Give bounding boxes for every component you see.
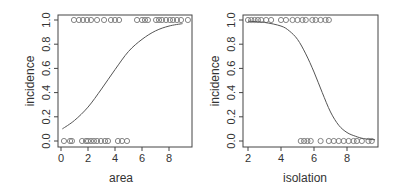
data-point	[303, 17, 308, 22]
data-point	[326, 138, 331, 143]
data-point	[185, 17, 190, 22]
x-axis: 02468	[58, 147, 172, 164]
x-tick-label: 2	[85, 152, 91, 164]
data-point	[134, 17, 139, 22]
data-points	[245, 17, 374, 143]
y-tick-label: 1.0	[225, 12, 237, 27]
x-axis-label: area	[109, 171, 133, 185]
y-tick-label: 0.2	[225, 109, 237, 124]
y-tick-label: 0.2	[40, 109, 52, 124]
y-tick-label: 0.6	[225, 61, 237, 76]
x-tick-label: 8	[344, 152, 350, 164]
data-point	[331, 138, 336, 143]
x-tick-label: 0	[58, 152, 64, 164]
data-point	[88, 17, 93, 22]
y-tick-label: 0.8	[225, 37, 237, 52]
data-point	[124, 138, 129, 143]
data-point	[283, 17, 288, 22]
y-tick-label: 1.0	[40, 12, 52, 27]
data-point	[295, 17, 300, 22]
y-axis-label: incidence	[208, 55, 222, 106]
data-point	[341, 138, 346, 143]
data-point	[308, 138, 313, 143]
data-point	[278, 17, 283, 22]
y-tick-label: 0.8	[40, 37, 52, 52]
data-point	[269, 17, 274, 22]
x-axis: 2468	[245, 147, 350, 164]
x-tick-label: 6	[311, 152, 317, 164]
x-tick-label: 8	[166, 152, 172, 164]
y-axis: 0.00.20.40.60.81.0	[225, 12, 243, 148]
y-tick-label: 0.0	[225, 133, 237, 148]
y-axis: 0.00.20.40.60.81.0	[40, 12, 58, 148]
data-point	[354, 138, 359, 143]
data-point	[264, 17, 269, 22]
data-points	[61, 17, 190, 143]
data-point	[71, 17, 76, 22]
panel-area: 0.00.20.40.60.81.0 02468 area incidence	[23, 12, 192, 185]
data-point	[290, 17, 295, 22]
x-tick-label: 4	[278, 152, 284, 164]
data-point	[313, 17, 318, 22]
y-tick-label: 0.6	[40, 61, 52, 76]
data-point	[94, 17, 99, 22]
y-axis-label: incidence	[23, 55, 37, 106]
chart-canvas: 0.00.20.40.60.81.0 02468 area incidence …	[0, 0, 401, 192]
panel-isolation: 0.00.20.40.60.81.0 2468 isolation incide…	[208, 12, 378, 185]
plot-frame	[243, 15, 378, 147]
data-point	[346, 138, 351, 143]
x-tick-label: 2	[245, 152, 251, 164]
data-point	[359, 138, 364, 143]
fit-curve	[248, 21, 375, 140]
data-point	[318, 138, 323, 143]
plot-frame	[58, 15, 192, 147]
y-tick-label: 0.4	[225, 85, 237, 100]
data-point	[336, 138, 341, 143]
x-tick-label: 4	[112, 152, 118, 164]
data-point	[101, 17, 106, 22]
x-tick-label: 6	[139, 152, 145, 164]
fit-curve	[62, 24, 182, 129]
y-tick-label: 0.4	[40, 85, 52, 100]
y-tick-label: 0.0	[40, 133, 52, 148]
data-point	[326, 17, 331, 22]
data-point	[318, 17, 323, 22]
x-axis-label: isolation	[283, 171, 327, 185]
data-point	[61, 138, 66, 143]
